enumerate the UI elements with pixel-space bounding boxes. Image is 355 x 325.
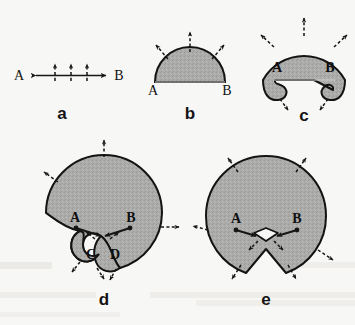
panel-c: A B c: [261, 18, 347, 125]
panel-d-letter: d: [99, 290, 109, 309]
panel-b: A B b: [148, 32, 232, 123]
wavefront-sequence-diagram: A B a A B: [0, 0, 355, 325]
panel-a-normals: [55, 64, 87, 81]
panel-b-label-B: B: [222, 83, 231, 98]
panel-d-label-D: D: [110, 247, 120, 262]
panel-b-letter: b: [185, 104, 195, 123]
panel-b-label-A: A: [148, 83, 159, 98]
panel-a-letter: a: [57, 104, 67, 123]
panel-d-label-A: A: [70, 210, 81, 225]
panel-d-label-C: C: [86, 247, 96, 262]
panel-b-wavefront: [155, 47, 225, 82]
panel-d-label-B: B: [126, 210, 135, 225]
scan-artifacts: [0, 262, 355, 317]
panel-e-wavefront: [206, 156, 326, 273]
panel-a: A B a: [14, 64, 124, 123]
panel-c-label-A: A: [272, 60, 283, 75]
panel-e-label-B: B: [292, 211, 301, 226]
panel-c-label-B: B: [325, 60, 334, 75]
panel-a-label-A: A: [14, 68, 25, 83]
panel-d: A B C D d: [44, 140, 179, 309]
panel-e-label-A: A: [231, 211, 242, 226]
panel-a-label-B: B: [114, 68, 123, 83]
panel-c-letter: c: [299, 106, 308, 125]
figure-canvas: A B a A B: [0, 0, 355, 325]
panel-e: A B e: [193, 156, 333, 309]
panel-e-letter: e: [261, 290, 270, 309]
